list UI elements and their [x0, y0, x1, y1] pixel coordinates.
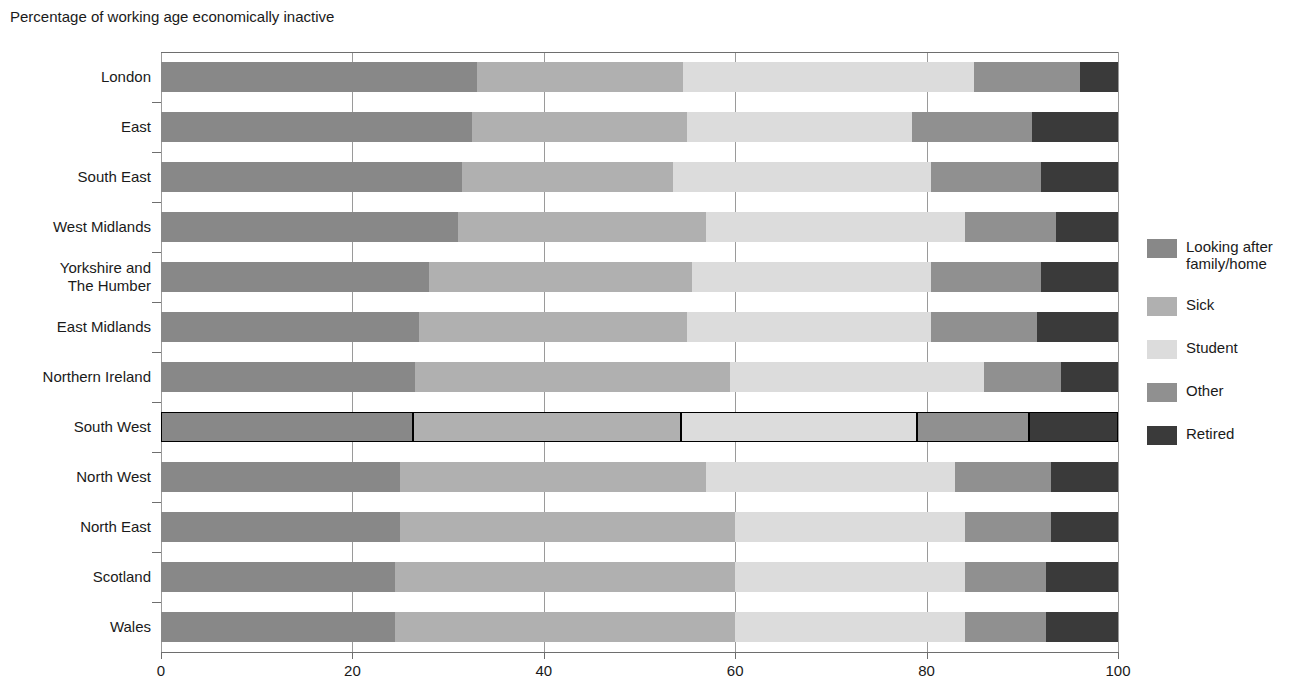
bar-segment [673, 162, 931, 192]
bar-row[interactable] [161, 462, 1118, 492]
category-label: North East [80, 518, 151, 536]
stacked-bar [161, 312, 1118, 342]
category-axis-tick [152, 502, 161, 503]
bar-segment [1037, 312, 1118, 342]
bar-segment [161, 312, 419, 342]
category-axis-tick [152, 152, 161, 153]
bar-segment [912, 112, 1032, 142]
x-axis-tick-label: 80 [918, 662, 935, 679]
bar-segment [931, 162, 1041, 192]
stacked-bar [161, 162, 1118, 192]
category-label: North West [76, 468, 151, 486]
bar-segment [735, 562, 965, 592]
bar-segment [429, 262, 692, 292]
bar-segment [472, 112, 687, 142]
bar-row[interactable] [161, 562, 1118, 592]
bar-row[interactable] [161, 212, 1118, 242]
x-axis-tick-label: 0 [157, 662, 165, 679]
stacked-bar [161, 512, 1118, 542]
bar-row[interactable] [161, 612, 1118, 642]
legend-label: Student [1186, 339, 1238, 356]
bar-segment [458, 212, 707, 242]
category-axis-tick [152, 202, 161, 203]
bar-segment [161, 212, 458, 242]
category-axis-tick [152, 352, 161, 353]
stacked-bar [161, 462, 1118, 492]
category-axis-tick [152, 602, 161, 603]
bar-segment [395, 562, 735, 592]
bar-row[interactable] [161, 412, 1118, 442]
bar-row[interactable] [161, 162, 1118, 192]
stacked-bar [161, 62, 1118, 92]
legend-label: Retired [1186, 425, 1234, 442]
legend-item[interactable]: Retired [1147, 425, 1297, 445]
bar-segment [1041, 162, 1118, 192]
legend-item[interactable]: Other [1147, 382, 1297, 402]
bar-segment [400, 512, 735, 542]
category-label: Northern Ireland [43, 368, 151, 386]
bar-row[interactable] [161, 112, 1118, 142]
bar-segment [955, 462, 1051, 492]
bar-segment [735, 512, 965, 542]
bar-segment [161, 362, 415, 392]
category-axis-tick [152, 402, 161, 403]
bar-segment [681, 412, 917, 442]
bar-segment [1051, 462, 1118, 492]
legend-item[interactable]: Sick [1147, 296, 1297, 316]
legend-label: Other [1186, 382, 1224, 399]
bar-segment [730, 362, 984, 392]
bar-row[interactable] [161, 62, 1118, 92]
bar-segment [400, 462, 706, 492]
category-label: Yorkshire and The Humber [60, 259, 151, 294]
legend-label: Looking after family/home [1186, 238, 1273, 273]
bar-row[interactable] [161, 362, 1118, 392]
bar-segment [413, 412, 681, 442]
bar-row[interactable] [161, 262, 1118, 292]
stacked-bar [161, 212, 1118, 242]
category-label: South East [78, 168, 151, 186]
bar-segment [1041, 262, 1118, 292]
legend-item[interactable]: Looking after family/home [1147, 238, 1297, 273]
bar-segment [161, 562, 395, 592]
bar-segment [419, 312, 687, 342]
stacked-bar [161, 562, 1118, 592]
x-axis-tick [544, 652, 545, 659]
category-axis-tick [152, 552, 161, 553]
legend-swatch [1147, 426, 1177, 445]
bar-segment [1046, 562, 1118, 592]
legend-swatch [1147, 383, 1177, 402]
legend-label: Sick [1186, 296, 1214, 313]
bar-segment [917, 412, 1029, 442]
bar-segment [965, 612, 1046, 642]
bar-segment [965, 212, 1056, 242]
x-axis-line [161, 652, 1118, 653]
bar-segment [1029, 412, 1118, 442]
x-axis-tick-label: 20 [344, 662, 361, 679]
chart-title: Percentage of working age economically i… [10, 8, 334, 25]
chart-legend: Looking after family/homeSickStudentOthe… [1147, 238, 1297, 468]
bar-segment [1046, 612, 1118, 642]
plot-area: 020406080100 [161, 52, 1118, 652]
bar-row[interactable] [161, 512, 1118, 542]
stacked-bar [161, 412, 1118, 442]
x-axis-tick [161, 652, 162, 659]
x-axis-tick-label: 40 [535, 662, 552, 679]
bar-segment [1080, 62, 1118, 92]
bar-segment [1061, 362, 1118, 392]
category-label: South West [74, 418, 151, 436]
bar-segment [692, 262, 931, 292]
bar-segment [477, 62, 683, 92]
x-axis-tick [735, 652, 736, 659]
bar-segment [965, 562, 1046, 592]
legend-item[interactable]: Student [1147, 339, 1297, 359]
bar-row[interactable] [161, 312, 1118, 342]
stacked-bar [161, 362, 1118, 392]
legend-swatch [1147, 297, 1177, 316]
category-label: East Midlands [57, 318, 151, 336]
category-axis-tick [152, 452, 161, 453]
category-label: London [101, 68, 151, 86]
bar-segment [1051, 512, 1118, 542]
bar-segment [161, 412, 413, 442]
gridline [1118, 52, 1119, 652]
bar-segment [931, 262, 1041, 292]
